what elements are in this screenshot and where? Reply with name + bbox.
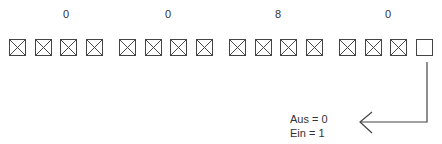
legend-off: Aus = 0	[290, 112, 328, 126]
legend: Aus = 0 Ein = 1	[290, 112, 328, 140]
arrow-connector	[0, 0, 442, 144]
legend-on: Ein = 1	[290, 126, 328, 140]
